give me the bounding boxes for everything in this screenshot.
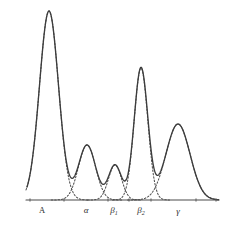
electrophoresis-plot: Aαβ1β2γ: [0, 0, 229, 229]
axis-label-β1: β1: [109, 205, 117, 216]
envelope-curve: [27, 11, 219, 200]
axis-label-subscript: 1: [115, 210, 118, 216]
component-curve-gamma: [128, 124, 219, 200]
axis-label-group: Aαβ1β2γ: [39, 205, 180, 216]
axis-label-γ: γ: [176, 206, 180, 216]
axis-label-α: α: [84, 205, 89, 215]
axis-label-β2: β2: [136, 205, 144, 216]
component-curve-beta2: [112, 68, 169, 200]
electrophoresis-figure: Aαβ1β2γ: [0, 0, 229, 229]
baseline-axis-group: [26, 198, 219, 201]
axis-label-A: A: [39, 205, 46, 215]
component-curve-beta1: [88, 165, 143, 200]
component-curve-A: [26, 11, 89, 200]
axis-label-subscript: 2: [142, 210, 145, 216]
component-curve-alpha: [51, 145, 122, 200]
